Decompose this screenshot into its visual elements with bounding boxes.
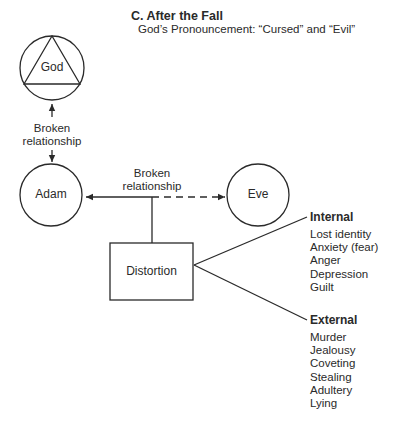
list-item: Murder xyxy=(310,331,355,344)
external-heading: External xyxy=(310,313,357,327)
internal-heading: Internal xyxy=(310,210,353,224)
relationship-line2: relationship xyxy=(12,135,92,148)
list-item: Lying xyxy=(310,397,355,410)
list-item: Guilt xyxy=(310,281,378,294)
list-item: Depression xyxy=(310,268,378,281)
list-item: Coveting xyxy=(310,357,355,370)
branch-line-external xyxy=(194,265,307,320)
branch-line-internal xyxy=(194,217,307,265)
adam-label: Adam xyxy=(21,188,81,201)
adam-eve-relationship-label: Broken relationship xyxy=(112,167,192,193)
eve-label: Eve xyxy=(228,188,288,201)
list-item: Anger xyxy=(310,254,378,267)
external-list: Murder Jealousy Coveting Stealing Adulte… xyxy=(310,331,355,410)
internal-list: Lost identity Anxiety (fear) Anger Depre… xyxy=(310,228,378,294)
god-adam-relationship-label: Broken relationship xyxy=(12,122,92,148)
list-item: Lost identity xyxy=(310,228,378,241)
relationship-line1: Broken xyxy=(112,167,192,180)
list-item: Anxiety (fear) xyxy=(310,241,378,254)
list-item: Stealing xyxy=(310,371,355,384)
list-item: Jealousy xyxy=(310,344,355,357)
relationship-line2: relationship xyxy=(112,180,192,193)
relationship-line1: Broken xyxy=(12,122,92,135)
distortion-label: Distortion xyxy=(110,265,193,278)
god-label: God xyxy=(22,61,82,74)
list-item: Adultery xyxy=(310,384,355,397)
